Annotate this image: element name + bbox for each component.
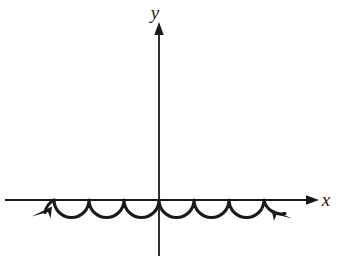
y-axis-arrowhead-icon: [154, 22, 163, 35]
coordinate-plane-figure: y x: [0, 0, 345, 267]
x-axis-arrowhead-icon: [306, 195, 319, 205]
y-axis-label: y: [149, 2, 160, 23]
figure-root: y x: [0, 0, 345, 267]
scalloped-curve: [54, 200, 285, 218]
x-axis-label: x: [321, 189, 331, 210]
curve-arrow-right-icon: [272, 210, 293, 222]
curve-arrow-left-icon: [32, 207, 53, 219]
